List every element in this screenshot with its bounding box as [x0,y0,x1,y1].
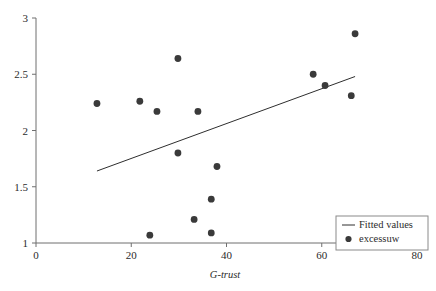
data-point [208,229,215,236]
data-point [352,30,359,37]
data-point [322,82,329,89]
data-point [195,108,202,115]
legend-item-label: Fitted values [359,219,413,230]
data-point [175,150,182,157]
data-point [136,98,143,105]
legend-dot-swatch [345,236,351,242]
data-point [348,92,355,99]
y-axis-ticks: 11.522.53 [14,12,36,249]
legend[interactable]: Fitted valuesexcessuw [336,216,428,250]
x-tick-label: 0 [33,249,39,261]
y-tick-label: 3 [23,12,29,24]
x-tick-label: 40 [221,249,233,261]
data-point [94,100,101,107]
regression-line [97,77,355,172]
data-point [154,108,161,115]
plot-canvas: 020406080 11.522.53 G-trust Fitted value… [0,0,436,291]
x-axis-label: G-trust [210,269,241,280]
data-point [310,71,317,78]
y-tick-label: 2 [23,125,29,137]
y-tick-label: 1.5 [14,181,28,193]
x-tick-label: 60 [316,249,328,261]
y-tick-label: 2.5 [14,68,28,80]
fitted-values-line [97,77,355,172]
data-points [94,30,359,238]
y-tick-label: 1 [23,237,29,249]
scatter-plot-figure: 020406080 11.522.53 G-trust Fitted value… [0,0,436,291]
data-point [208,196,215,203]
data-point [191,216,198,223]
axes [36,18,417,243]
data-point [175,55,182,62]
x-tick-label: 20 [126,249,138,261]
data-point [146,232,153,239]
data-point [214,163,221,170]
x-tick-label: 80 [412,249,424,261]
legend-item-label: excessuw [359,233,400,244]
